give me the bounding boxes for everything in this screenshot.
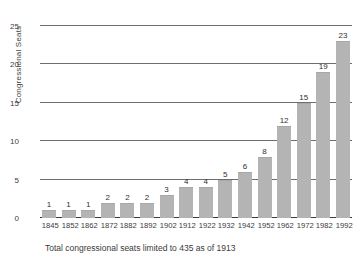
bar-value-label: 2 bbox=[125, 194, 129, 202]
bar-value-label: 19 bbox=[319, 63, 328, 71]
x-axis-tick-label: 1892 bbox=[140, 221, 154, 230]
bar-value-label: 2 bbox=[106, 194, 110, 202]
bar-value-label: 4 bbox=[204, 178, 208, 186]
bar bbox=[140, 203, 154, 218]
x-axis-tick-label: 1845 bbox=[42, 221, 56, 230]
bar bbox=[258, 157, 272, 218]
bar bbox=[42, 210, 56, 218]
bar-slot: 2 bbox=[101, 26, 115, 218]
bar bbox=[120, 203, 134, 218]
x-axis-tick-label: 1882 bbox=[120, 221, 134, 230]
plot-area: 11122234456812151923 bbox=[40, 26, 352, 218]
bar-slot: 5 bbox=[218, 26, 232, 218]
x-axis-tick-label: 1912 bbox=[179, 221, 193, 230]
y-axis-tick-label: 10 bbox=[0, 137, 19, 146]
bar-slot: 3 bbox=[160, 26, 174, 218]
x-axis-tick-label: 1852 bbox=[61, 221, 75, 230]
bar-value-label: 2 bbox=[145, 194, 149, 202]
bar-value-label: 1 bbox=[47, 201, 51, 209]
x-axis-tick-label: 1962 bbox=[277, 221, 291, 230]
x-axis-tick-label: 1942 bbox=[238, 221, 252, 230]
x-axis-tick-label: 1952 bbox=[257, 221, 271, 230]
chart-caption: Total congressional seats limited to 435… bbox=[45, 243, 235, 253]
y-axis-tick-label: 5 bbox=[0, 176, 19, 185]
y-axis-tick-label: 20 bbox=[0, 60, 19, 69]
bar bbox=[238, 172, 252, 218]
bar-slot: 2 bbox=[120, 26, 134, 218]
bar-slot: 2 bbox=[140, 26, 154, 218]
bar bbox=[81, 210, 95, 218]
bar bbox=[218, 180, 232, 218]
bar-slot: 12 bbox=[277, 26, 291, 218]
bar-slot: 4 bbox=[179, 26, 193, 218]
bar bbox=[160, 195, 174, 218]
bar-slot: 6 bbox=[238, 26, 252, 218]
bar-slot: 15 bbox=[297, 26, 311, 218]
bar-slot: 19 bbox=[316, 26, 330, 218]
bar bbox=[316, 72, 330, 218]
x-axis-tick-labels: 1845185218621872188218921902191219221932… bbox=[40, 221, 352, 230]
bar-value-label: 8 bbox=[262, 148, 266, 156]
bar-value-label: 3 bbox=[164, 186, 168, 194]
y-axis-tick-label: 15 bbox=[0, 99, 19, 108]
bar-value-label: 1 bbox=[86, 201, 90, 209]
bar bbox=[62, 210, 76, 218]
bar-value-label: 23 bbox=[338, 32, 347, 40]
bar-value-label: 4 bbox=[184, 178, 188, 186]
bar bbox=[336, 41, 350, 218]
x-axis-tick-label: 1862 bbox=[81, 221, 95, 230]
x-axis-tick-label: 1982 bbox=[316, 221, 330, 230]
bar bbox=[199, 187, 213, 218]
bar-slot: 8 bbox=[258, 26, 272, 218]
bar-value-label: 6 bbox=[243, 163, 247, 171]
y-axis-tick-label: 0 bbox=[0, 214, 19, 223]
bar-slot: 23 bbox=[336, 26, 350, 218]
bar bbox=[297, 103, 311, 218]
bar-slot: 1 bbox=[81, 26, 95, 218]
x-axis-tick-label: 1922 bbox=[199, 221, 213, 230]
bar-series: 11122234456812151923 bbox=[40, 26, 352, 218]
bar-slot: 1 bbox=[42, 26, 56, 218]
bar-value-label: 5 bbox=[223, 171, 227, 179]
bar-value-label: 12 bbox=[280, 117, 289, 125]
bar-slot: 1 bbox=[62, 26, 76, 218]
x-axis-tick-label: 1972 bbox=[297, 221, 311, 230]
bar-value-label: 15 bbox=[299, 94, 308, 102]
bar-chart: Congressional Seats 11122234456812151923… bbox=[0, 0, 363, 272]
bar-value-label: 1 bbox=[66, 201, 70, 209]
x-axis-tick-label: 1902 bbox=[159, 221, 173, 230]
x-axis-tick-label: 1932 bbox=[218, 221, 232, 230]
x-axis-tick-label: 1992 bbox=[336, 221, 350, 230]
bar bbox=[179, 187, 193, 218]
x-axis-tick-label: 1872 bbox=[101, 221, 115, 230]
bar bbox=[277, 126, 291, 218]
y-axis-tick-label: 25 bbox=[0, 22, 19, 31]
bar-slot: 4 bbox=[199, 26, 213, 218]
bar bbox=[101, 203, 115, 218]
